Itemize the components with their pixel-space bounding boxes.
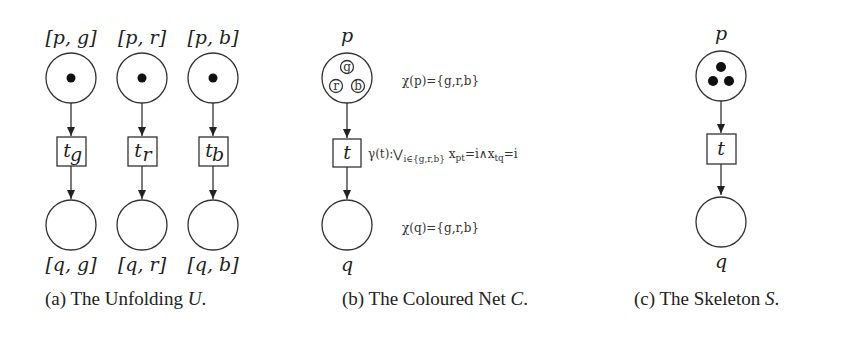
- place-label-q-r: [q, r]: [118, 253, 167, 275]
- token: [209, 74, 218, 83]
- petri-net-figure: [p, g] t g [q, g] [p, r] t r [q, r] [p: [0, 0, 844, 339]
- unfolding-column-r: [p, r] t r [q, r]: [117, 26, 167, 275]
- token-label-b: b: [354, 79, 362, 93]
- token: [67, 74, 76, 83]
- chi-p-annotation: χ(p)={g,r,b}: [402, 74, 479, 88]
- place-label-q: q: [341, 253, 353, 275]
- token: [724, 76, 734, 86]
- panel-skeleton: p t q (c) The Skeleton S.: [634, 22, 779, 310]
- token-label-r: r: [333, 79, 339, 93]
- token: [708, 76, 718, 86]
- place-label-p-r: [p, r]: [118, 26, 167, 48]
- transition-label-t: t: [343, 141, 351, 163]
- guard-annotation: γ(t):⋁i∈{g,r,b} xpt=i∧xtq=i: [368, 147, 518, 164]
- token: [138, 74, 147, 83]
- chi-q-annotation: χ(q)={g,r,b}: [402, 221, 479, 235]
- token: [716, 62, 726, 72]
- place-label-q-b: [q, b]: [187, 253, 239, 275]
- place-label-p: p: [715, 22, 727, 44]
- caption-skeleton: (c) The Skeleton S.: [634, 288, 779, 310]
- place-label-q-g: [q, g]: [45, 253, 97, 275]
- place-q-g: [46, 200, 96, 250]
- token-label-g: g: [343, 60, 351, 74]
- unfolding-column-b: [p, b] t b [q, b]: [187, 26, 239, 275]
- place-q: [322, 200, 372, 250]
- place-p: [696, 51, 746, 101]
- place-label-p: p: [341, 24, 353, 46]
- place-label-q: q: [715, 250, 727, 272]
- place-label-p-b: [p, b]: [187, 26, 239, 48]
- transition-sub-g: g: [70, 143, 82, 165]
- place-label-p-g: [p, g]: [45, 26, 97, 48]
- panel-coloured-net: p g r b χ(p)={g,r,b} t γ(t):⋁i∈{g,r,b} x…: [322, 24, 528, 310]
- panel-unfolding: [p, g] t g [q, g] [p, r] t r [q, r] [p: [45, 26, 239, 310]
- unfolding-column-g: [p, g] t g [q, g]: [45, 26, 97, 275]
- transition-label-t-r: t: [134, 139, 142, 161]
- caption-coloured-net: (b) The Coloured Net C.: [342, 288, 528, 310]
- place-q-b: [188, 200, 238, 250]
- place-q: [696, 197, 746, 247]
- transition-label-t: t: [717, 137, 725, 159]
- place-q-r: [117, 200, 167, 250]
- caption-unfolding: (a) The Unfolding U.: [45, 288, 206, 310]
- transition-sub-b: b: [212, 143, 224, 165]
